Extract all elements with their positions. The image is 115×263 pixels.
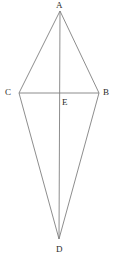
vertex-label-B: B [103, 88, 109, 97]
geometry-figure: A B C D E [0, 0, 115, 263]
diagonal-AD [59, 11, 60, 239]
segment-layer [19, 11, 99, 239]
vertex-label-E: E [62, 98, 68, 107]
vertex-label-C: C [5, 88, 11, 97]
segment-AB [60, 11, 99, 93]
segment-BD [59, 93, 99, 239]
segment-CD [19, 93, 59, 239]
vertex-label-D: D [56, 245, 63, 254]
geometry-canvas [0, 0, 115, 263]
vertex-label-A: A [56, 1, 63, 10]
segment-AC [19, 11, 60, 93]
